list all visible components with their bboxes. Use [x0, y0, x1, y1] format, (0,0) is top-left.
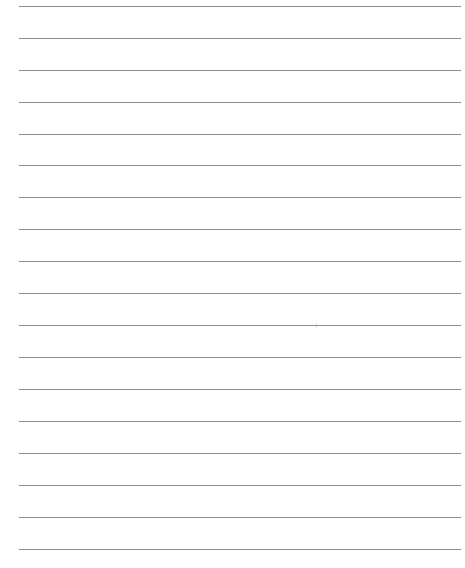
ruled-line — [19, 6, 461, 7]
ruled-line — [19, 197, 461, 198]
ruled-line — [19, 261, 461, 262]
ruled-line — [19, 357, 461, 358]
speck-mark — [316, 324, 317, 327]
ruled-line — [19, 421, 461, 422]
ruled-line — [19, 102, 461, 103]
ruled-line — [19, 325, 461, 326]
ruled-line — [19, 517, 461, 518]
ruled-line — [19, 165, 461, 166]
ruled-line — [19, 549, 461, 550]
ruled-line — [19, 229, 461, 230]
ruled-line — [19, 70, 461, 71]
ruled-line — [19, 453, 461, 454]
ruled-line — [19, 485, 461, 486]
ruled-line — [19, 134, 461, 135]
ruled-line — [19, 293, 461, 294]
ruled-line — [19, 38, 461, 39]
ruled-line — [19, 389, 461, 390]
